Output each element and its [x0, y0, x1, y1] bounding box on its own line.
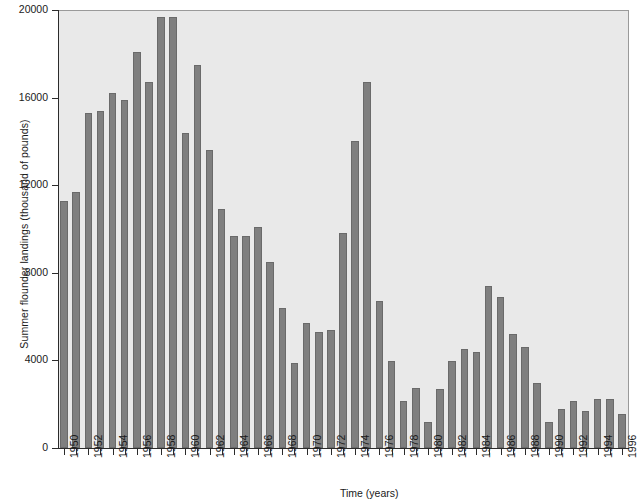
x-tick: [343, 449, 344, 455]
bar: [351, 141, 359, 448]
bar: [97, 111, 105, 448]
y-tick-20000: [52, 10, 59, 11]
x-tick: [428, 449, 429, 455]
x-tick-label: 1958: [165, 435, 177, 458]
x-tick-label: 1982: [456, 435, 468, 458]
y-tick-12000: [52, 185, 59, 186]
bar: [121, 100, 129, 448]
x-tick-label: 1980: [432, 435, 444, 458]
bar: [157, 17, 165, 448]
x-tick: [64, 449, 65, 455]
x-tick: [234, 449, 235, 455]
bar: [218, 209, 226, 448]
bar: [461, 349, 469, 448]
bar: [509, 334, 517, 448]
bar: [206, 150, 214, 448]
x-tick-label: 1950: [68, 435, 80, 458]
x-tick: [185, 449, 186, 455]
x-tick: [416, 449, 417, 455]
y-tick-label: 20000: [0, 3, 48, 15]
bar: [169, 17, 177, 448]
x-tick: [525, 449, 526, 455]
x-axis-title: Time (years): [340, 487, 399, 499]
bar: [497, 297, 505, 448]
x-tick: [76, 449, 77, 455]
x-tick: [307, 449, 308, 455]
x-tick-label: 1968: [286, 435, 298, 458]
y-tick-0: [52, 448, 59, 449]
bar: [182, 133, 190, 448]
x-tick: [549, 449, 550, 455]
x-tick: [197, 449, 198, 455]
x-tick: [100, 449, 101, 455]
x-tick: [161, 449, 162, 455]
y-tick-16000: [52, 98, 59, 99]
x-tick: [331, 449, 332, 455]
x-tick: [598, 449, 599, 455]
bar: [473, 352, 481, 448]
bar: [376, 301, 384, 448]
bar: [60, 201, 68, 448]
x-tick: [282, 449, 283, 455]
x-tick-label: 1974: [359, 435, 371, 458]
x-tick: [476, 449, 477, 455]
x-tick-label: 1970: [311, 435, 323, 458]
y-axis-line: [58, 10, 59, 449]
x-tick-label: 1956: [141, 435, 153, 458]
bar: [618, 414, 626, 448]
x-tick: [513, 449, 514, 455]
x-tick: [88, 449, 89, 455]
bar: [145, 82, 153, 448]
bar: [109, 93, 117, 448]
y-tick-label: 0: [0, 441, 48, 453]
x-tick: [258, 449, 259, 455]
x-tick-label: 1978: [408, 435, 420, 458]
bar: [133, 52, 141, 448]
bar: [594, 399, 602, 448]
x-tick: [173, 449, 174, 455]
x-tick: [622, 449, 623, 455]
x-tick-label: 1992: [577, 435, 589, 458]
x-tick: [355, 449, 356, 455]
x-tick: [501, 449, 502, 455]
x-tick: [319, 449, 320, 455]
x-tick: [149, 449, 150, 455]
bar: [448, 361, 456, 448]
x-tick-label: 1954: [117, 435, 129, 458]
x-tick-label: 1966: [262, 435, 274, 458]
x-tick-label: 1994: [602, 435, 614, 458]
x-tick: [392, 449, 393, 455]
x-tick-label: 1986: [505, 435, 517, 458]
x-tick: [452, 449, 453, 455]
x-tick-label: 1990: [553, 435, 565, 458]
x-tick-label: 1972: [335, 435, 347, 458]
x-tick: [404, 449, 405, 455]
x-tick: [294, 449, 295, 455]
x-tick: [379, 449, 380, 455]
bar: [485, 286, 493, 448]
y-axis-title: Summer flounder landings (thousand of po…: [18, 84, 30, 384]
bar: [327, 330, 335, 448]
bar: [279, 308, 287, 448]
x-tick-label: 1996: [626, 435, 638, 458]
x-tick: [270, 449, 271, 455]
x-tick-label: 1952: [92, 435, 104, 458]
x-tick: [125, 449, 126, 455]
x-tick-label: 1962: [214, 435, 226, 458]
x-tick: [137, 449, 138, 455]
x-tick: [537, 449, 538, 455]
x-tick: [210, 449, 211, 455]
x-tick: [561, 449, 562, 455]
x-tick: [489, 449, 490, 455]
x-tick: [464, 449, 465, 455]
bar: [303, 323, 311, 448]
x-tick: [113, 449, 114, 455]
x-tick-label: 1976: [383, 435, 395, 458]
bar: [266, 262, 274, 448]
bar: [363, 82, 371, 448]
x-tick: [222, 449, 223, 455]
x-tick: [586, 449, 587, 455]
x-tick-label: 1964: [238, 435, 250, 458]
bar: [254, 227, 262, 448]
